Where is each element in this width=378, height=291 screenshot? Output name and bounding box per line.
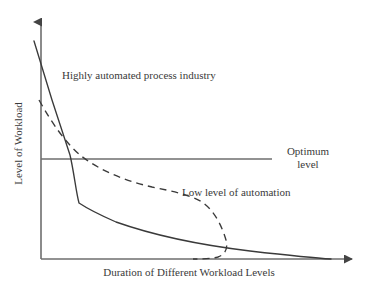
x-axis-title: Duration of Different Workload Levels [0,266,378,279]
dashed-curve-label: Low level of automation [182,186,290,199]
optimum-level-label-line1: Optimum [287,145,329,157]
y-axis-title: Level of Workload [12,88,25,198]
solid-curve-label: Highly automated process industry [62,69,216,82]
chart-figure: Highly automated process industry Low le… [0,0,378,291]
optimum-level-label-line2: level [276,158,340,171]
optimum-level-label: Optimum level [276,145,340,171]
dashed-curve-low-automation [39,100,227,259]
